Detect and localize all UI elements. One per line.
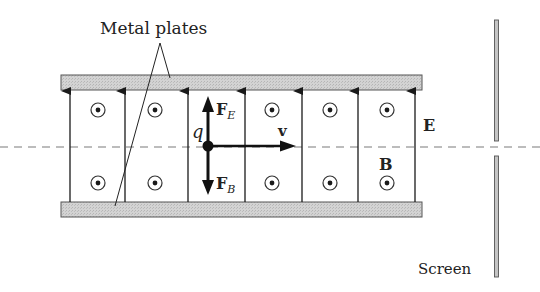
charge-particle <box>203 141 214 152</box>
top-metal-plate <box>61 75 422 90</box>
charge-label: q <box>192 121 204 142</box>
b-out-of-page-icon <box>380 103 394 117</box>
electric-field-label: E <box>423 116 435 135</box>
velocity-label: v <box>277 122 288 140</box>
electric-force-label: FE <box>216 100 235 122</box>
screen-lower-segment <box>495 156 499 277</box>
screen-label: Screen <box>418 260 472 278</box>
b-out-of-page-icon <box>323 176 337 190</box>
b-out-of-page-icon <box>265 103 279 117</box>
screen-upper-segment <box>495 20 499 141</box>
magnetic-force-arrowhead <box>202 180 214 195</box>
b-out-of-page-icon <box>91 176 105 190</box>
magnetic-force-label-main: F <box>216 174 228 193</box>
b-out-of-page-icon <box>380 176 394 190</box>
screen <box>495 20 499 277</box>
metal-plates-label: Metal plates <box>100 18 207 38</box>
velocity-arrowhead <box>280 141 296 152</box>
electric-force-label-main: F <box>216 100 228 119</box>
b-out-of-page-icon <box>323 103 337 117</box>
velocity-selector-diagram: Metal plates Screen q v E B FE FB <box>0 0 540 292</box>
b-out-of-page-icon <box>148 103 162 117</box>
b-out-of-page-icon <box>91 103 105 117</box>
b-out-of-page-icon <box>265 176 279 190</box>
magnetic-force-label: FB <box>216 174 235 196</box>
b-out-of-page-icon <box>148 176 162 190</box>
magnetic-field-label: B <box>379 155 393 174</box>
magnetic-force-label-sub: B <box>226 183 235 196</box>
electric-force-arrowhead <box>202 96 214 112</box>
electric-force-label-sub: E <box>226 109 235 122</box>
